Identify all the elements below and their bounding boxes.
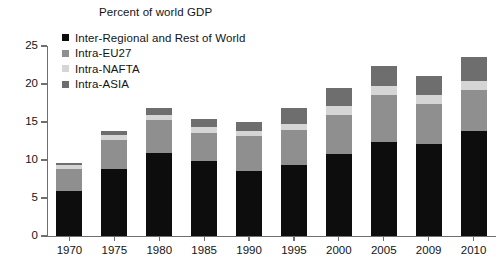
x-axis-tick-mark	[114, 237, 115, 241]
y-axis-tick-mark	[41, 235, 47, 236]
x-axis-tick-label: 1980	[137, 244, 181, 256]
bar-segment	[146, 120, 172, 153]
legend-item-inter-regional-and-rest-of-world: Inter-Regional and Rest of World	[62, 30, 292, 46]
chart-title: Percent of world GDP	[99, 6, 212, 18]
bar-segment	[191, 127, 217, 132]
bar-segment	[236, 136, 262, 171]
bar-segment	[146, 108, 172, 115]
x-axis-tick-mark	[338, 237, 339, 241]
bar-segment	[191, 161, 217, 236]
bar-segment	[56, 191, 82, 236]
bar-segment	[326, 115, 352, 154]
x-axis-tick-mark	[473, 237, 474, 241]
bar-segment	[326, 106, 352, 115]
bar-segment	[461, 131, 487, 236]
y-axis-tick-label: 0	[9, 230, 38, 242]
bar-segment	[56, 163, 82, 165]
bar-segment	[146, 153, 172, 236]
bar-segment	[101, 135, 127, 140]
x-axis-tick-mark	[293, 237, 294, 241]
y-axis-tick-label: 20	[9, 78, 38, 90]
x-axis-tick-label: 1970	[47, 244, 91, 256]
legend-swatch-icon	[62, 34, 69, 41]
bar-segment	[371, 95, 397, 141]
bar-segment	[281, 165, 307, 236]
bar-segment	[281, 124, 307, 129]
x-axis-tick-label: 1995	[272, 244, 316, 256]
bar-segment	[56, 165, 82, 169]
bar-segment	[191, 119, 217, 127]
bar-1975	[101, 46, 127, 236]
x-axis-tick-label: 2009	[407, 244, 451, 256]
y-axis-tick-mark	[41, 159, 47, 160]
bar-1980	[146, 46, 172, 236]
bar-segment	[56, 169, 82, 191]
bar-segment	[416, 76, 442, 95]
bar-segment	[326, 154, 352, 236]
y-axis-tick-label: 25	[9, 40, 38, 52]
y-axis-tick-label: 15	[9, 116, 38, 128]
y-axis-line	[47, 46, 48, 237]
bar-segment	[461, 81, 487, 90]
bar-segment	[416, 144, 442, 236]
x-axis-tick-mark	[428, 237, 429, 241]
y-axis-tick-mark	[41, 121, 47, 122]
bar-segment	[416, 95, 442, 103]
bar-segment	[281, 108, 307, 124]
x-axis-tick-label: 1990	[227, 244, 271, 256]
bar-segment	[101, 131, 127, 135]
x-axis-tick-label: 1975	[92, 244, 136, 256]
bar-segment	[461, 57, 487, 81]
x-axis-tick-mark	[69, 237, 70, 241]
x-axis-tick-mark	[159, 237, 160, 241]
bar-segment	[191, 133, 217, 161]
bar-segment	[236, 122, 262, 131]
bar-1990	[236, 46, 262, 236]
x-axis-tick-label: 2010	[452, 244, 496, 256]
legend-label: Inter-Regional and Rest of World	[75, 32, 245, 44]
bar-2009	[416, 46, 442, 236]
bar-segment	[236, 131, 262, 136]
x-axis-tick-mark	[204, 237, 205, 241]
bar-segment	[101, 169, 127, 236]
bar-segment	[371, 86, 397, 95]
x-axis-tick-label: 1985	[182, 244, 226, 256]
bar-segment	[101, 140, 127, 169]
bar-segment	[416, 104, 442, 144]
bar-segment	[371, 142, 397, 236]
bar-segment	[461, 90, 487, 131]
x-axis-tick-label: 2005	[362, 244, 406, 256]
x-axis-tick-mark	[383, 237, 384, 241]
bar-1995	[281, 46, 307, 236]
y-axis-tick-mark	[41, 83, 47, 84]
bar-1970	[56, 46, 82, 236]
y-axis-tick-mark	[41, 45, 47, 46]
bar-segment	[281, 130, 307, 166]
bar-2000	[326, 46, 352, 236]
bar-1985	[191, 46, 217, 236]
y-axis-tick-label: 5	[9, 192, 38, 204]
bar-2010	[461, 46, 487, 236]
y-axis-tick-label: 10	[9, 154, 38, 166]
bar-2005	[371, 46, 397, 236]
x-axis-tick-label: 2000	[317, 244, 361, 256]
bar-segment	[236, 171, 262, 236]
y-axis-tick-mark	[41, 197, 47, 198]
bar-segment	[326, 88, 352, 106]
x-axis-tick-mark	[248, 237, 249, 241]
stacked-bar-chart: Percent of world GDP Inter-Regional and …	[0, 0, 501, 269]
bar-segment	[371, 66, 397, 87]
bar-segment	[146, 115, 172, 120]
